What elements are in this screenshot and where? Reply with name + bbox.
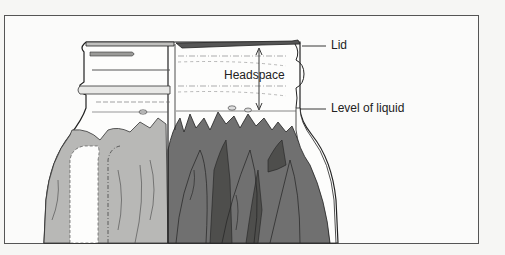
headspace-label: Headspace [224,68,285,82]
lid-label: Lid [331,38,347,52]
level-of-liquid-label: Level of liquid [331,101,404,115]
jar-illustration [0,0,505,255]
jar [44,40,338,243]
headspace-diagram: Headspace Lid Level of liquid [0,0,505,255]
